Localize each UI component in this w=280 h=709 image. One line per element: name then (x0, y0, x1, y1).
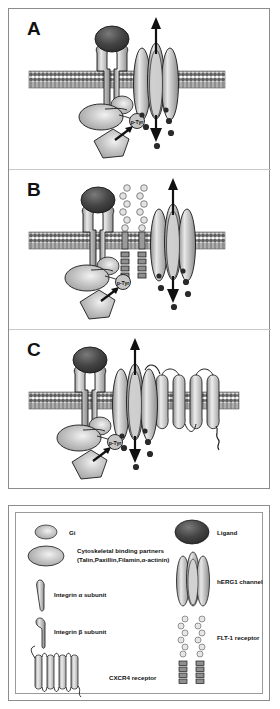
cytoskeletal-and-gi (57, 417, 115, 479)
cytoskeletal-partners-blob (79, 104, 123, 130)
herg1-channel (134, 43, 179, 120)
legend-ligand-icon (175, 520, 209, 544)
panel-a-scene: p-Tyr (9, 9, 271, 169)
p-tyr-label: p-Tyr (109, 440, 122, 446)
legend-label-cytoskeletal-sub: (Talin,Paxillin,Filamin,α-actinin) (77, 556, 169, 564)
p-tyr-label: p-Tyr (131, 119, 144, 125)
legend-cxcr4-icon (35, 655, 78, 689)
legend-integrin-alpha-icon (37, 580, 45, 611)
ligand-ellipse (95, 26, 129, 52)
herg1-channel (151, 204, 196, 281)
legend-label-herg1: hERG1 channel (217, 578, 263, 586)
cytoskeletal-partners-blob (65, 265, 109, 291)
legend-label-gi: Gi (69, 529, 76, 537)
p-tyr-label: p-Tyr (117, 280, 130, 286)
cytoskeletal-and-gi (79, 96, 137, 158)
membrane-bilayer (29, 71, 225, 88)
herg1-channel (113, 364, 158, 441)
legend-cytoskeletal-icon (28, 546, 64, 566)
legend-herg1-icon (177, 552, 210, 606)
ligand-ellipse (81, 187, 115, 213)
panel-c: C (9, 329, 271, 490)
legend-label-flt1: FLT-1 receptor (217, 634, 260, 642)
cytoskeletal-partners-blob (57, 425, 101, 451)
legend-label-integrin-beta: Integrin β subunit (54, 628, 106, 636)
ligand-ellipse (73, 347, 107, 373)
panels-frame: A (8, 8, 270, 489)
legend-gi-icon (35, 525, 57, 539)
legend-label-ligand: Ligand (217, 529, 237, 537)
panel-b: B (9, 169, 271, 330)
panel-b-scene: p-Tyr (9, 170, 271, 330)
legend-integrin-beta-icon (36, 618, 45, 648)
figure-root: A (0, 0, 280, 709)
legend-label-cxcr4: CXCR4 receptor (109, 674, 156, 682)
legend-label-integrin-alpha: Integrin α subunit (54, 591, 106, 599)
panel-c-scene: p-Tyr (9, 330, 271, 490)
legend-frame: Gi Cytoskeletal binding partners (Talin,… (8, 505, 270, 701)
legend-label-cytoskeletal: Cytoskeletal binding partners (77, 547, 164, 555)
cytoskeletal-and-gi (65, 257, 123, 319)
legend-flt1-icon (178, 616, 205, 684)
flt1-receptor (120, 185, 148, 278)
panel-a: A (9, 9, 271, 169)
p-tyr-node: p-Tyr (116, 275, 131, 290)
